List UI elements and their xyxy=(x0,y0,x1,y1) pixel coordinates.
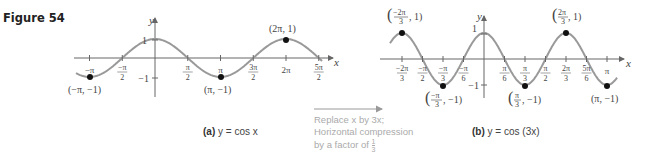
graph-b-point-label-pi-3: ( π 3 , −1) xyxy=(508,89,541,109)
graph-b-point-neg-pi-3 xyxy=(440,83,446,89)
graph-a-point-label-pi: (π, −1) xyxy=(204,84,231,96)
svg-text:2π: 2π xyxy=(281,65,291,75)
graph-a-xtick-label: π2 xyxy=(183,63,193,82)
svg-text:π: π xyxy=(502,64,506,73)
graph-b-caption: (b) y = cos (3x) xyxy=(472,126,540,137)
graph-a-ytick-1: 1 xyxy=(142,35,147,46)
graph-b-xtick-label: −2π3 xyxy=(396,64,409,83)
transform-note-line2: Horizontal compression xyxy=(314,126,413,138)
svg-text:2: 2 xyxy=(120,73,124,82)
graph-a-xtick-label: 3π2 xyxy=(248,63,258,82)
svg-text:−2π: −2π xyxy=(396,64,409,73)
svg-text:2: 2 xyxy=(544,74,548,83)
svg-text:3: 3 xyxy=(564,74,568,83)
svg-text:−π: −π xyxy=(418,64,427,73)
graph-a: −π−π2π2π3π22π5π2 1 −1 y x (−π, −1) (π, −… xyxy=(68,14,339,97)
graph-b-point-label-pi: (π, −1) xyxy=(591,93,618,105)
graph-a-xtick-label: −π xyxy=(85,65,95,75)
graph-b-point-label-2pi-3: ( 2π 3 , 1) xyxy=(552,6,581,26)
svg-text:−π: −π xyxy=(459,64,468,73)
graph-a-caption-equation: y = cos x xyxy=(218,126,258,137)
svg-text:6: 6 xyxy=(462,74,466,83)
graph-b-ytick-neg1: −1 xyxy=(468,80,479,91)
svg-text:−π: −π xyxy=(431,91,440,100)
svg-text:π: π xyxy=(515,91,519,100)
graph-b-xtick-label: π3 xyxy=(520,64,530,83)
svg-text:(: ( xyxy=(552,6,557,24)
svg-text:3: 3 xyxy=(435,100,439,109)
graph-a-y-label: y xyxy=(148,14,154,26)
graph-b-point-2pi-3 xyxy=(563,30,569,36)
svg-text:−π: −π xyxy=(439,64,448,73)
svg-text:3: 3 xyxy=(400,74,404,83)
svg-text:2: 2 xyxy=(186,73,190,82)
svg-text:3: 3 xyxy=(523,74,527,83)
graph-b-point-label-neg-2pi-3: ( −2π 3 , 1) xyxy=(387,6,422,26)
graph-b-caption-equation: y = cos (3x) xyxy=(488,126,540,137)
svg-text:π: π xyxy=(186,63,190,72)
svg-text:6: 6 xyxy=(585,74,589,83)
graph-a-point-2pi xyxy=(283,37,289,43)
svg-text:, −1): , −1) xyxy=(522,94,541,106)
svg-text:−2π: −2π xyxy=(393,8,406,17)
graph-a-xtick-label: −π2 xyxy=(117,63,127,82)
graph-b-xtick-label: π xyxy=(605,66,610,76)
svg-text:3: 3 xyxy=(561,17,565,26)
graph-b-xtick-label: 2π3 xyxy=(561,64,571,83)
svg-text:(: ( xyxy=(387,6,392,24)
svg-text:5π: 5π xyxy=(315,63,323,72)
graph-a-caption: (a) y = cos x xyxy=(203,126,258,137)
svg-text:3: 3 xyxy=(515,100,519,109)
graph-b-point-pi xyxy=(604,83,610,89)
transform-note-line1: Replace x by 3x; xyxy=(314,114,413,126)
svg-text:−π: −π xyxy=(118,63,127,72)
graph-b-x-label: x xyxy=(625,57,631,69)
svg-text:(: ( xyxy=(425,89,430,107)
graph-a-point-neg-pi xyxy=(87,74,93,80)
svg-text:π: π xyxy=(523,64,527,73)
graph-a-point-pi xyxy=(218,74,224,80)
transform-note-fraction: 13 xyxy=(372,138,376,153)
svg-text:−π: −π xyxy=(85,65,95,75)
svg-text:2: 2 xyxy=(421,74,425,83)
graph-b-xtick-label: −π2 xyxy=(418,64,428,83)
svg-text:3π: 3π xyxy=(249,63,257,72)
svg-text:π: π xyxy=(218,65,223,75)
graph-b: −2π3−π2−π3−π6π6π3π22π35π6π 1 −1 y x ( −2… xyxy=(380,6,631,109)
graph-a-xtick-label: 2π xyxy=(281,65,291,75)
graph-b-xtick-label: 5π6 xyxy=(582,64,592,83)
svg-text:2: 2 xyxy=(251,73,255,82)
svg-text:3: 3 xyxy=(399,17,403,26)
graph-a-point-label-2pi: (2π, 1) xyxy=(269,23,296,35)
graph-a-x-label: x xyxy=(333,56,339,68)
svg-text:5π: 5π xyxy=(582,64,590,73)
graph-b-xtick-label: −π3 xyxy=(438,64,448,83)
transform-note-line3: by a factor of 13 xyxy=(314,138,413,153)
graph-b-y-label: y xyxy=(476,10,482,22)
graph-a-xtick-label: π xyxy=(218,65,223,75)
graph-b-caption-prefix: (b) xyxy=(472,126,485,137)
svg-text:, −1): , −1) xyxy=(443,94,462,106)
graph-a-caption-prefix: (a) xyxy=(203,126,215,137)
graph-a-ytick-neg1: −1 xyxy=(138,73,149,84)
svg-text:2: 2 xyxy=(317,73,321,82)
svg-text:π: π xyxy=(543,64,547,73)
svg-text:2π: 2π xyxy=(562,64,570,73)
graph-b-point-pi-3 xyxy=(522,83,528,89)
svg-text:(: ( xyxy=(508,89,513,107)
svg-text:π: π xyxy=(605,66,610,76)
svg-text:, 1): , 1) xyxy=(409,11,422,23)
graph-b-ytick-1: 1 xyxy=(472,23,477,34)
graph-a-xtick-label: 5π2 xyxy=(314,63,324,82)
transform-note: Replace x by 3x; Horizontal compression … xyxy=(314,114,413,153)
svg-text:6: 6 xyxy=(503,74,507,83)
svg-text:, 1): , 1) xyxy=(568,11,581,23)
graph-b-xtick-label: −π6 xyxy=(459,64,469,83)
graph-a-point-label-neg-pi: (−π, −1) xyxy=(68,84,101,96)
svg-text:3: 3 xyxy=(441,74,445,83)
graph-b-point-neg-2pi-3 xyxy=(399,30,405,36)
svg-text:2π: 2π xyxy=(558,8,566,17)
graph-b-point-label-neg-pi-3: ( −π 3 , −1) xyxy=(425,89,462,109)
